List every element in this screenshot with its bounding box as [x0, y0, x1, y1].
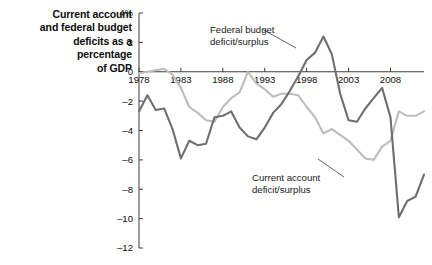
caption-line: of GDP — [4, 62, 132, 75]
leader-line-current-account — [318, 159, 344, 177]
y-tick-label: –10 — [117, 213, 133, 224]
y-tick-label: –8 — [122, 184, 133, 195]
caption-line: and federal budget — [4, 21, 132, 34]
y-tick-label: –6 — [122, 154, 133, 165]
chart-figure: Current accountand federal budgetdeficit… — [0, 0, 432, 265]
annotation-line: deficit/surplus — [252, 184, 320, 196]
y-tick-label: –2 — [122, 96, 133, 107]
y-tick-label: –4 — [122, 125, 133, 136]
annotation-current-account: Current accountdeficit/surplus — [252, 172, 320, 195]
x-tick-label: 1988 — [212, 74, 233, 85]
x-tick-label: 1978 — [128, 74, 149, 85]
caption-line: percentage — [4, 48, 132, 61]
annotation-line: deficit/surplus — [210, 36, 275, 48]
figure-caption: Current accountand federal budgetdeficit… — [4, 8, 132, 75]
caption-line: deficits as a — [4, 35, 132, 48]
x-tick-label: 2003 — [338, 74, 359, 85]
annotation-line: Federal budget — [210, 24, 275, 36]
annotation-federal-budget: Federal budgetdeficit/surplus — [210, 24, 275, 47]
annotation-line: Current account — [252, 172, 320, 184]
caption-line: Current account — [4, 8, 132, 21]
y-tick-label: –12 — [117, 242, 133, 253]
x-tick-label: 2008 — [380, 74, 401, 85]
